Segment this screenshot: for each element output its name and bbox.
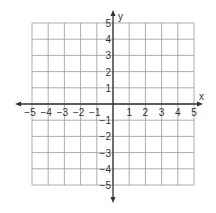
x-tick-label: −5 [24,107,36,118]
y-tick-label: 1 [105,83,111,94]
x-tick-label: −3 [57,107,69,118]
y-axis-up-arrow-icon [111,10,116,16]
y-tick-label: −1 [100,115,112,126]
x-tick-label: 5 [191,107,197,118]
x-tick-label: 2 [143,107,149,118]
y-tick-label: −2 [100,131,112,142]
x-tick-label: 1 [126,107,132,118]
y-tick-label: −5 [100,180,112,191]
x-axis-left-arrow-icon [15,102,21,107]
x-tick-label: −2 [73,107,85,118]
y-axis-label: y [118,11,123,22]
y-tick-label: 5 [105,18,111,29]
y-tick-label: 4 [105,34,111,45]
y-tick-label: −4 [100,164,112,175]
x-axis-label: x [199,91,204,102]
x-axis-right-arrow-icon [197,102,203,107]
x-tick-label: 4 [175,107,181,118]
coordinate-plane: −5−4−3−2−11234554321−1−2−3−4−5 x y [0,0,216,213]
y-tick-label: 2 [105,67,111,78]
y-tick-label: −3 [100,148,112,159]
y-axis-down-arrow-icon [111,197,116,203]
x-tick-label: 3 [159,107,165,118]
x-tick-label: −4 [40,107,52,118]
y-tick-label: 3 [105,50,111,61]
